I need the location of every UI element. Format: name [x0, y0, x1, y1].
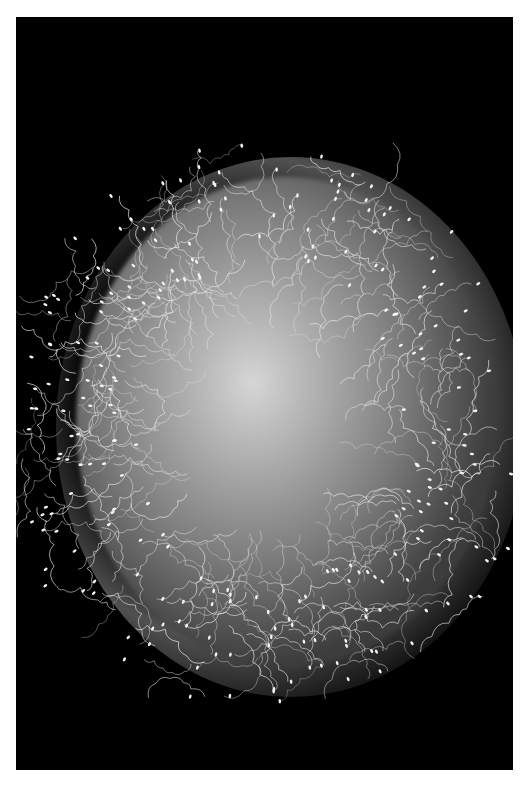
photo-frame: [16, 17, 513, 770]
sperm-cells: [16, 17, 513, 770]
